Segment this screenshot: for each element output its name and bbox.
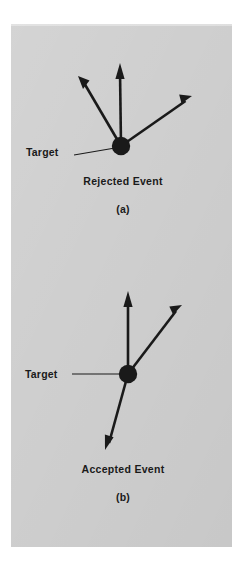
figure-a-track-up-icon [115,63,124,146]
figure-a-track-up-left-icon [78,76,121,146]
figure-a-target-leader-line [74,148,115,155]
figure-b-caption: Accepted Event [82,463,165,475]
figure-a-caption: Rejected Event [83,175,163,187]
figure-b-group: Target Accepted Event (b) [25,291,182,503]
event-diagram-svg: Target Rejected Event (a) [0,0,247,561]
figure-a-panel-id: (a) [116,203,129,215]
figure-b-track-up-right-icon [128,305,182,374]
figure-a-track-up-right-icon [121,95,192,146]
figure-a-group: Target Rejected Event (a) [26,63,192,215]
figure-a-target-label: Target [26,146,59,158]
figure-b-track-up-icon [123,291,132,374]
figure-b-track-down-left-icon [105,374,128,450]
figure-b-target-label: Target [25,368,58,380]
figure-b-panel-id: (b) [116,491,130,503]
figure-root: Target Rejected Event (a) [0,0,247,561]
figure-b-vertex-dot [119,365,137,383]
figure-a-vertex-dot [112,137,130,155]
